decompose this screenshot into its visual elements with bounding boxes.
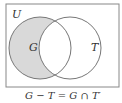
set-g-label: G [29,41,38,54]
venn-diagram: U G T G − T = G ∩ T′ [0,0,122,103]
caption: G − T = G ∩ T′ [25,90,102,101]
universe-label: U [12,8,22,21]
